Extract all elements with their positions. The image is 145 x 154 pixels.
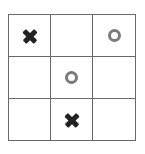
cell-r1-c0[interactable] [9,57,51,99]
x-mark-icon [23,29,37,43]
cell-r0-c0[interactable] [9,15,51,57]
cell-r0-c1[interactable] [51,15,93,57]
cell-r0-c2[interactable] [93,15,135,57]
cell-r2-c2[interactable] [93,99,135,140]
cell-r1-c2[interactable] [93,57,135,99]
tic-tac-toe-board [8,14,136,141]
cell-r1-c1[interactable] [51,57,93,99]
o-mark-icon [65,71,78,84]
cell-r2-c0[interactable] [9,99,51,140]
x-mark-icon [65,113,79,127]
cell-r2-c1[interactable] [51,99,93,140]
o-mark-icon [108,29,121,42]
